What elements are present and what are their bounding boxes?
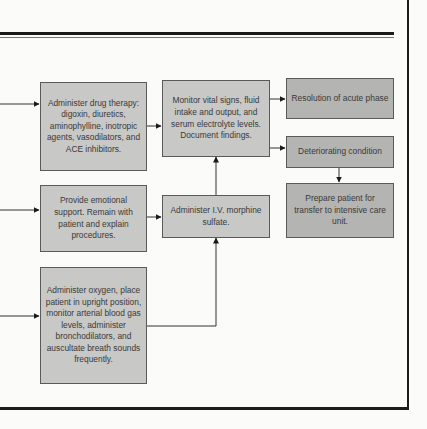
resolution-box: Resolution of acute phase [286, 78, 394, 119]
transfer-box: Prepare patient for transfer to intensiv… [286, 183, 394, 238]
oxygen-box: Administer oxygen, place patient in upri… [40, 267, 147, 384]
monitor-box: Monitor vital signs, fluid intake and ou… [162, 80, 270, 157]
emotional-support-box: Provide emotional support. Remain with p… [40, 185, 147, 252]
arrow-oxygen-to-morphine [146, 238, 216, 326]
drug-therapy-box: Administer drug therapy: digoxin, diuret… [40, 82, 147, 171]
deteriorating-box: Deteriorating condition [286, 136, 394, 168]
morphine-box: Administer I.V. morphine sulfate. [162, 195, 270, 238]
